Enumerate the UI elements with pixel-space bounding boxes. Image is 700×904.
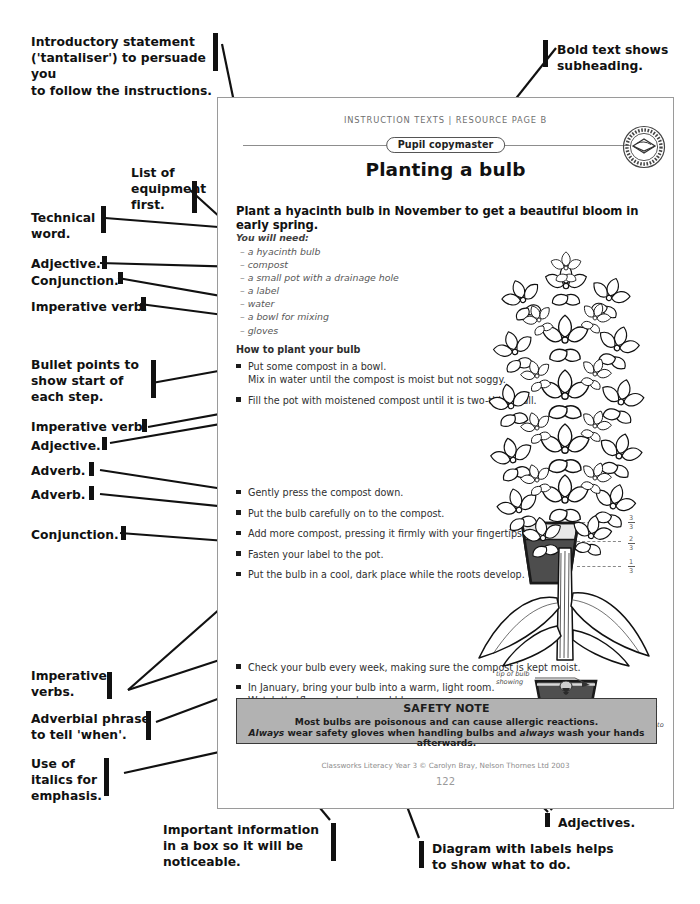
page-header: Instruction Texts | Resource Page B xyxy=(218,115,673,125)
annotation-bold-text: Bold text shows subheading. xyxy=(557,42,697,74)
tick-adjective-2 xyxy=(102,437,107,450)
tick-imperative-verbs xyxy=(107,672,112,699)
list-item: a hyacinth bulb xyxy=(240,245,399,258)
safety-note-heading: SAFETY NOTE xyxy=(237,702,656,715)
tick-list-equipment xyxy=(192,181,197,213)
safety-note-line-1: Most bulbs are poisonous and can cause a… xyxy=(237,717,656,727)
tick-adverb-1 xyxy=(89,462,94,476)
list-item: water xyxy=(240,297,399,310)
annotation-imperative-verb-1: Imperative verb. xyxy=(31,299,147,315)
list-item: compost xyxy=(240,258,399,271)
safety-note-line-2: Always wear safety gloves when handling … xyxy=(237,728,656,748)
label-tip-of-bulb: tip of bulb showing xyxy=(496,670,530,686)
tick-bold-text xyxy=(543,40,548,67)
tick-bullet-points xyxy=(151,360,156,398)
safety-note-box: SAFETY NOTE Most bulbs are poisonous and… xyxy=(236,698,657,744)
annotation-list-equipment: List of equipment first. xyxy=(131,165,211,214)
list-item: a bowl for mixing xyxy=(240,310,399,323)
tick-adverb-2 xyxy=(89,486,94,500)
photocopiable-stamp-icon xyxy=(622,125,666,169)
annotation-important-box: Important information in a box so it wil… xyxy=(163,822,333,871)
tick-technical-word xyxy=(101,206,106,233)
pupil-copymaster-badge: Pupil copymaster xyxy=(386,137,506,153)
annotation-adjective-1: Adjective. xyxy=(31,256,101,272)
annotation-intro: Introductory statement ('tantaliser') to… xyxy=(31,34,216,99)
annotation-adverb-2: Adverb. xyxy=(31,487,86,503)
method-heading: How to plant your bulb xyxy=(236,344,360,355)
bullet-square-icon xyxy=(236,551,241,556)
annotation-conjunction-1: Conjunction. xyxy=(31,273,119,289)
tick-conjunction-1 xyxy=(118,272,123,284)
tick-important-box xyxy=(331,823,336,861)
worksheet-sheet: Instruction Texts | Resource Page B Pupi… xyxy=(217,97,674,809)
bullet-square-icon xyxy=(236,685,241,690)
hyacinth-illustration xyxy=(473,248,659,668)
tick-adjective-1 xyxy=(102,256,107,269)
page-title: Planting a bulb xyxy=(218,159,673,180)
tick-adverbial-phrase xyxy=(146,711,151,740)
tick-italics xyxy=(104,758,109,796)
tantaliser-statement: Plant a hyacinth bulb in November to get… xyxy=(236,204,663,232)
equipment-heading: You will need: xyxy=(236,232,309,243)
equipment-list: a hyacinth bulb compost a small pot with… xyxy=(240,245,399,337)
annotation-imperative-verbs: Imperative verbs. xyxy=(31,668,131,700)
list-item: a label xyxy=(240,284,399,297)
tick-diagram-labels xyxy=(419,841,424,868)
annotation-adjective-2: Adjective. xyxy=(31,438,101,454)
annotation-adverbial-phrase: Adverbial phrase to tell 'when'. xyxy=(31,711,161,743)
annotated-worksheet-page: Introductory statement ('tantaliser') to… xyxy=(0,0,700,904)
bullet-square-icon xyxy=(236,397,241,402)
safety-emphasis-always-2: always xyxy=(520,728,555,738)
leader-line-tip xyxy=(535,675,597,689)
annotation-bullet-points: Bullet points to show start of each step… xyxy=(31,357,151,406)
annotation-imperative-verb-2: Imperative verb. xyxy=(31,419,147,435)
bullet-square-icon xyxy=(236,364,241,369)
annotation-conjunction-2: Conjunction. xyxy=(31,527,119,543)
annotation-diagram-labels: Diagram with labels helps to show what t… xyxy=(432,841,622,873)
bullet-square-icon xyxy=(236,664,241,669)
annotation-adverb-1: Adverb. xyxy=(31,463,86,479)
safety-emphasis-always-1: Always xyxy=(248,728,284,738)
copyright-credit: Classworks Literacy Year 3 © Carolyn Bra… xyxy=(218,761,673,770)
list-item: a small pot with a drainage hole xyxy=(240,271,399,284)
annotation-technical-word: Technical word. xyxy=(31,210,121,242)
page-number: 122 xyxy=(218,776,673,787)
bullet-square-icon xyxy=(236,572,241,577)
tick-adjectives xyxy=(545,813,550,827)
tick-conjunction-2 xyxy=(121,526,126,540)
annotation-adjectives: Adjectives. xyxy=(558,815,635,831)
bullet-square-icon xyxy=(236,510,241,515)
bullet-square-icon xyxy=(236,531,241,536)
list-item: gloves xyxy=(240,324,399,337)
bullet-square-icon xyxy=(236,490,241,495)
tick-imperative-verb-1 xyxy=(141,297,146,311)
tick-intro xyxy=(213,33,218,71)
tick-imperative-verb-2 xyxy=(142,419,147,432)
